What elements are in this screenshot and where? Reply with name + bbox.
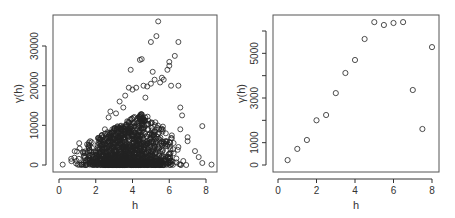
data-point [362, 36, 367, 41]
data-point [401, 20, 406, 25]
data-point [343, 70, 348, 75]
scatter-points [285, 20, 435, 163]
empirical-variogram-plot: 02468h0100030005000γ(h) [0, 0, 455, 218]
data-point [324, 112, 329, 117]
data-point [381, 22, 386, 27]
data-point [429, 45, 434, 50]
figure: 02468h0100002000030000γ(h) 02468h0100030… [0, 0, 455, 218]
x-tick-label: 2 [314, 185, 320, 196]
y-tick-label: 1000 [249, 131, 260, 154]
data-point [314, 118, 319, 123]
data-point [372, 20, 377, 25]
data-point [295, 146, 300, 151]
data-point [304, 137, 309, 142]
x-tick-label: 0 [275, 185, 281, 196]
data-point [352, 57, 357, 62]
x-tick-label: 8 [429, 185, 435, 196]
y-tick-label: 0 [249, 162, 260, 168]
y-tick-label: 3000 [249, 86, 260, 109]
x-tick-label: 6 [391, 185, 397, 196]
y-tick-label: 5000 [249, 42, 260, 65]
data-point [410, 87, 415, 92]
data-point [333, 91, 338, 96]
data-point [285, 158, 290, 163]
data-point [420, 126, 425, 131]
data-point [391, 20, 396, 25]
y-axis-label: γ(h) [235, 84, 247, 103]
plot-box [273, 15, 439, 172]
x-tick-label: 4 [352, 185, 358, 196]
x-axis-label: h [353, 199, 359, 211]
